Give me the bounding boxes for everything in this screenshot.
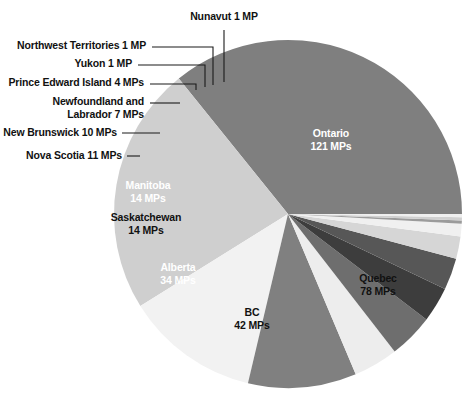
slice-label-manitoba-value: 14 MPs (104, 192, 192, 205)
slice-label-manitoba: Manitoba 14 MPs (104, 179, 192, 205)
slice-label-alberta: Alberta 34 MPs (136, 261, 220, 287)
slice-label-yukon: Yukon 1 MP (0, 57, 132, 70)
slice-label-saskatchewan-name: Saskatchewan (111, 211, 182, 223)
slice-label-saskatchewan: Saskatchewan 14 MPs (92, 211, 200, 237)
slice-label-quebec-value: 78 MPs (336, 285, 420, 298)
slice-label-quebec: Quebec 78 MPs (336, 272, 420, 298)
slice-label-nova-scotia: Nova Scotia 11 MPs (0, 149, 122, 162)
slice-label-bc-name: BC (245, 306, 260, 318)
slice-label-bc-value: 42 MPs (212, 319, 292, 332)
slice-label-newfoundland-line2: Labrador 7 MPs (0, 108, 144, 121)
slice-label-newfoundland-line1: Newfoundland and (52, 95, 144, 107)
slice-label-prince-edward-island: Prince Edward Island 4 MPs (0, 76, 144, 89)
slice-label-manitoba-name: Manitoba (126, 179, 171, 191)
slice-label-ontario-name: Ontario (313, 127, 349, 139)
slice-label-newfoundland-and-labrador: Newfoundland and Labrador 7 MPs (0, 95, 144, 120)
slice-label-quebec-name: Quebec (359, 272, 397, 284)
slice-label-ontario: Ontario 121 MPs (290, 127, 372, 153)
slice-label-bc: BC 42 MPs (212, 306, 292, 332)
slice-label-alberta-value: 34 MPs (136, 274, 220, 287)
slice-label-northwest-territories: Northwest Territories 1 MP (0, 39, 146, 52)
slice-label-new-brunswick: New Brunswick 10 MPs (0, 126, 117, 139)
pie-chart-figure: Nunavut 1 MP Northwest Territories 1 MP … (0, 0, 472, 397)
slice-label-ontario-value: 121 MPs (290, 140, 372, 153)
slice-label-nunavut: Nunavut 1 MP (148, 10, 300, 23)
slice-label-alberta-name: Alberta (160, 261, 195, 273)
slice-label-saskatchewan-value: 14 MPs (92, 224, 200, 237)
